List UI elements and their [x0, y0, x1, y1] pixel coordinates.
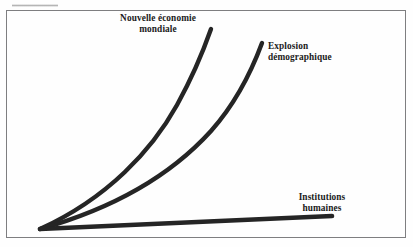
curve-label-explosion-demographique: Explosion démographique [268, 41, 388, 63]
curve-nouvelle-economie-mondiale [40, 29, 211, 229]
line-institutions-humaines [40, 216, 332, 229]
curve-label-institutions-humaines: Institutions humaines [280, 192, 364, 214]
curve-label-nouvelle-economie-mondiale: Nouvelle économie mondiale [104, 13, 212, 35]
figure-canvas: Nouvelle économie mondiale Explosion dém… [0, 0, 413, 247]
curve-explosion-demographique [40, 43, 262, 229]
